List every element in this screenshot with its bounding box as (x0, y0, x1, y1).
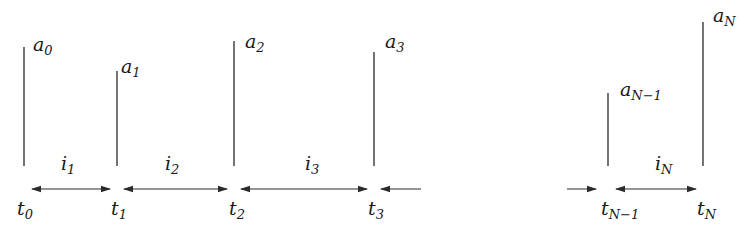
label-iN: iN (655, 152, 673, 177)
label-t3: t3 (368, 197, 384, 222)
label-aN-1: aN−1 (620, 78, 662, 103)
label-aN: aN (713, 4, 736, 29)
amplitude-labels: a0 a1 a2 a3 aN−1 aN (33, 4, 736, 103)
label-tN: tN (697, 197, 717, 222)
timeline-diagram: a0 a1 a2 a3 aN−1 aN i1 i2 i3 iN t0 t1 t2… (0, 0, 749, 233)
label-t1: t1 (111, 197, 127, 222)
time-labels: t0 t1 t2 t3 tN−1 tN (17, 197, 717, 222)
label-a2: a2 (245, 30, 265, 55)
label-a1: a1 (121, 55, 141, 80)
label-t0: t0 (17, 197, 33, 222)
label-a0: a0 (33, 33, 53, 58)
impulse-lines (24, 22, 703, 166)
label-i1: i1 (61, 152, 75, 177)
label-tN-1: tN−1 (601, 197, 639, 222)
label-a3: a3 (385, 30, 405, 55)
interval-labels: i1 i2 i3 iN (61, 152, 673, 177)
label-i2: i2 (165, 152, 179, 177)
label-i3: i3 (305, 152, 319, 177)
label-t2: t2 (229, 197, 245, 222)
